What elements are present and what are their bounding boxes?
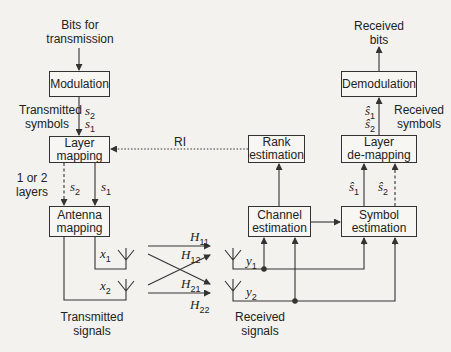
output-bits-label: Received bits <box>340 20 418 47</box>
transmitted-symbols-label: Transmitted symbols <box>19 104 75 131</box>
layer-demapping-block: Layer de-mapping <box>341 135 417 163</box>
demodulation-block: Demodulation <box>341 71 417 97</box>
antenna-mapping-block: Antenna mapping <box>49 206 110 237</box>
symbol-estimation-block: Symbol estimation <box>341 206 417 237</box>
symbol-s1-tx: s1 <box>85 117 95 136</box>
symbol-s1-layer: s1 <box>101 180 111 199</box>
signal-x2: x2 <box>100 279 111 298</box>
mimo-block-diagram: Bits for transmission Received bits Modu… <box>0 0 451 352</box>
signal-y1: y1 <box>246 254 257 273</box>
channel-h21: H21 <box>181 277 200 296</box>
connector-lines <box>0 0 451 352</box>
signal-y2: y2 <box>246 285 257 304</box>
received-signals-label: Received signals <box>232 311 288 338</box>
rank-indicator-label: RI <box>170 136 190 150</box>
channel-h12: H12 <box>181 248 200 267</box>
symbol-s1-hat-est: ŝ1 <box>349 180 359 199</box>
channel-h22: H22 <box>190 298 209 317</box>
transmitted-signals-label: Transmitted signals <box>58 311 126 338</box>
symbol-s2-layer: s2 <box>70 180 80 199</box>
symbol-s2-hat-est: ŝ2 <box>378 180 388 199</box>
rank-estimation-block: Rank estimation <box>248 135 305 163</box>
signal-x1: x1 <box>100 247 111 266</box>
channel-h11: H11 <box>190 230 209 249</box>
symbol-s2-hat-rx: ŝ2 <box>365 117 375 136</box>
layer-mapping-block: Layer mapping <box>49 136 110 163</box>
received-symbols-label: Received symbols <box>391 104 447 131</box>
channel-estimation-block: Channel estimation <box>248 206 311 237</box>
modulation-block: Modulation <box>49 71 110 97</box>
input-bits-label: Bits for transmission <box>40 19 120 46</box>
layers-count-label: 1 or 2 layers <box>12 172 52 199</box>
